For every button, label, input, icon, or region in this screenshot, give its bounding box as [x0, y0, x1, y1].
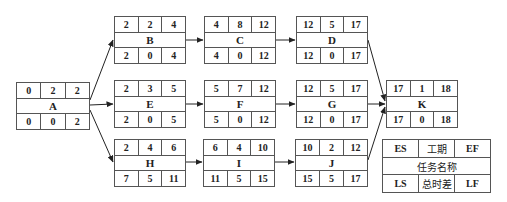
legend-duration: 工期	[418, 140, 454, 157]
task-node-b: 224 B 204	[114, 16, 186, 64]
ef-value: 12	[251, 81, 275, 96]
ls-value: 4	[205, 48, 228, 63]
es-value: 10	[296, 140, 319, 155]
arrow-a-b	[90, 40, 113, 100]
total-float-value: 0	[138, 112, 162, 127]
legend-box: ES 工期 EF 任务名称 LS 总时差 LF	[382, 139, 491, 193]
total-float-value: 5	[319, 171, 343, 186]
total-float-value: 0	[410, 112, 434, 127]
lf-value: 17	[343, 112, 367, 127]
es-value: 4	[205, 17, 228, 32]
task-node-d: 12517 D 12017	[296, 16, 368, 64]
task-node-j: 10212 J 15517	[295, 139, 368, 187]
ef-value: 12	[343, 140, 367, 155]
arrow-a-e	[90, 104, 113, 105]
task-name: K	[387, 97, 457, 111]
lf-value: 17	[343, 48, 367, 63]
total-float-value: 0	[228, 48, 252, 63]
task-name: I	[204, 156, 274, 170]
task-name: B	[115, 33, 185, 47]
es-value: 12	[297, 17, 320, 32]
ef-value: 18	[433, 81, 457, 96]
lf-value: 17	[343, 171, 367, 186]
lf-value: 2	[65, 114, 89, 129]
arrow-d-k	[368, 40, 385, 101]
ls-value: 2	[115, 112, 138, 127]
arrow-a-h	[90, 110, 113, 162]
legend-es: ES	[383, 140, 418, 157]
ef-value: 17	[343, 17, 367, 32]
lf-value: 11	[161, 171, 185, 186]
task-node-g: 12517 G 12017	[296, 80, 368, 128]
task-node-f: 5712 F 5012	[204, 80, 276, 128]
task-name: G	[297, 97, 367, 111]
duration-value: 2	[138, 17, 162, 32]
es-value: 12	[297, 81, 320, 96]
total-float-value: 0	[228, 112, 252, 127]
es-value: 0	[17, 83, 40, 98]
duration-value: 8	[228, 17, 252, 32]
task-node-c: 4812 C 4012	[204, 16, 276, 64]
lf-value: 4	[161, 48, 185, 63]
task-name: H	[115, 156, 185, 170]
task-node-e: 235 E 205	[114, 80, 186, 128]
ls-value: 12	[297, 112, 320, 127]
ef-value: 2	[65, 83, 89, 98]
ls-value: 15	[296, 171, 319, 186]
lf-value: 12	[251, 112, 275, 127]
es-value: 2	[115, 140, 138, 155]
total-float-value: 5	[227, 171, 251, 186]
task-name: E	[115, 97, 185, 111]
duration-value: 5	[320, 81, 344, 96]
ef-value: 5	[161, 81, 185, 96]
ls-value: 17	[387, 112, 410, 127]
ls-value: 5	[205, 112, 228, 127]
legend-task-name: 任务名称	[383, 158, 490, 174]
ls-value: 7	[115, 171, 138, 186]
task-name: A	[17, 99, 89, 113]
ls-value: 0	[17, 114, 40, 129]
ls-value: 12	[297, 48, 320, 63]
ef-value: 12	[251, 17, 275, 32]
ef-value: 4	[161, 17, 185, 32]
task-name: C	[205, 33, 275, 47]
total-float-value: 0	[40, 114, 64, 129]
total-float-value: 0	[320, 112, 344, 127]
es-value: 6	[204, 140, 227, 155]
task-node-i: 6410 I 11515	[203, 139, 275, 187]
ef-value: 17	[343, 81, 367, 96]
lf-value: 18	[433, 112, 457, 127]
es-value: 5	[205, 81, 228, 96]
lf-value: 12	[251, 48, 275, 63]
task-name: F	[205, 97, 275, 111]
task-node-k: 17118 K 17018	[386, 80, 458, 128]
lf-value: 15	[250, 171, 274, 186]
task-name: J	[296, 156, 367, 170]
total-float-value: 5	[138, 171, 162, 186]
duration-value: 2	[40, 83, 64, 98]
total-float-value: 0	[138, 48, 162, 63]
legend-total-float: 总时差	[418, 175, 454, 192]
ef-value: 10	[250, 140, 274, 155]
ls-value: 11	[204, 171, 227, 186]
duration-value: 5	[320, 17, 344, 32]
es-value: 2	[115, 81, 138, 96]
task-node-a: 022 A 002	[16, 82, 90, 130]
duration-value: 3	[138, 81, 162, 96]
duration-value: 1	[410, 81, 434, 96]
ef-value: 6	[161, 140, 185, 155]
total-float-value: 0	[320, 48, 344, 63]
legend-ls: LS	[383, 175, 418, 192]
task-node-h: 246 H 7511	[114, 139, 186, 187]
ls-value: 2	[115, 48, 138, 63]
legend-ef: EF	[454, 140, 490, 157]
duration-value: 7	[228, 81, 252, 96]
duration-value: 4	[138, 140, 162, 155]
task-name: D	[297, 33, 367, 47]
es-value: 17	[387, 81, 410, 96]
lf-value: 5	[161, 112, 185, 127]
legend-lf: LF	[454, 175, 490, 192]
duration-value: 2	[319, 140, 343, 155]
es-value: 2	[115, 17, 138, 32]
duration-value: 4	[227, 140, 251, 155]
